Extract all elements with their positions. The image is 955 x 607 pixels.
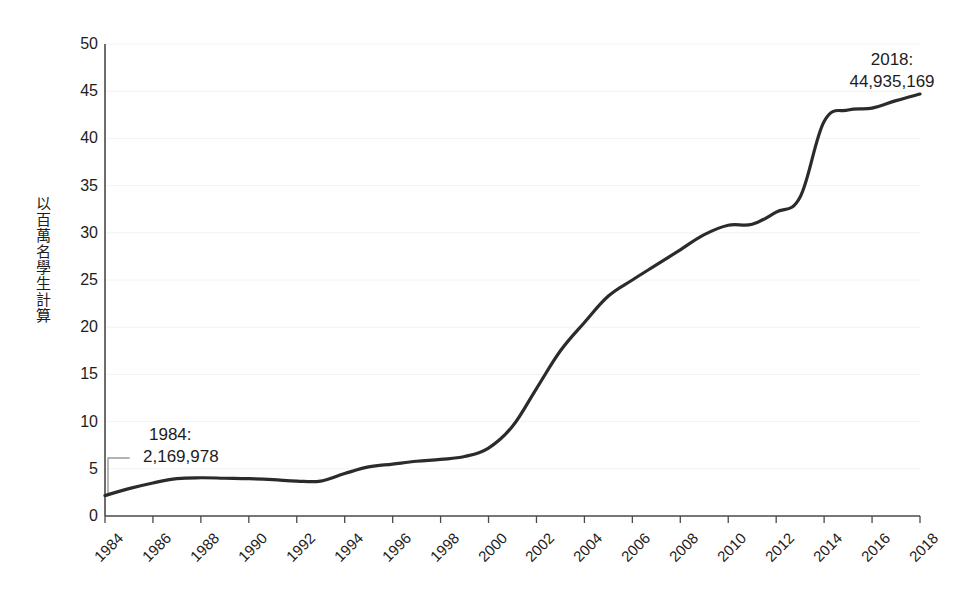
annotation-2018-value: 44,935,169 xyxy=(838,71,946,93)
annotation-1984: 1984: 2,169,978 xyxy=(143,424,219,468)
annotation-2018-year: 2018: xyxy=(838,49,946,71)
annotation-2018: 2018: 44,935,169 xyxy=(838,49,946,93)
x-axis-tick-labels: 1984198619881990199219941996199820002002… xyxy=(0,0,955,607)
annotation-1984-year: 1984: xyxy=(143,424,219,446)
annotation-1984-value: 2,169,978 xyxy=(143,446,219,468)
chart-canvas: 以百萬名學生計算 05101520253035404550 1984198619… xyxy=(0,0,955,607)
